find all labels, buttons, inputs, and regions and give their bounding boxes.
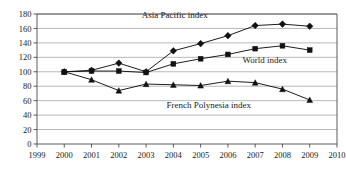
- x-tick-label-2001: 2001: [83, 150, 100, 160]
- chart-canvas: 020406080100120140160180 199920002001200…: [0, 0, 346, 174]
- x-tick-label-2007: 2007: [247, 150, 264, 160]
- x-tick-label-1999: 1999: [29, 150, 46, 160]
- y-tick-label-100: 100: [19, 67, 32, 77]
- data-point-1-2009: [307, 48, 312, 53]
- y-tick-label-120: 120: [19, 52, 32, 62]
- x-tick-label-2004: 2004: [165, 150, 183, 160]
- data-point-1-2008: [280, 43, 285, 48]
- annotation-asia-pacific-index: Asia Pacific index: [142, 10, 208, 20]
- x-tick-label-2010: 2010: [329, 150, 346, 160]
- y-tick-label-40: 40: [23, 110, 32, 120]
- y-tick-label-180: 180: [19, 9, 32, 19]
- annotation-world-index: World index: [242, 55, 287, 65]
- y-tick-label-80: 80: [23, 81, 32, 91]
- data-point-1-2007: [253, 46, 258, 51]
- data-point-1-2003: [144, 70, 149, 75]
- x-tick-label-2005: 2005: [192, 150, 209, 160]
- y-tick-label-0: 0: [27, 139, 31, 149]
- x-tick-label-2002: 2002: [110, 150, 127, 160]
- y-tick-label-20: 20: [23, 125, 32, 135]
- x-tick-label-2003: 2003: [138, 150, 155, 160]
- x-tick-label-2006: 2006: [219, 150, 236, 160]
- data-point-1-2001: [89, 69, 94, 74]
- line-chart: 020406080100120140160180 199920002001200…: [0, 0, 346, 174]
- x-tick-label-2000: 2000: [56, 150, 73, 160]
- x-tick-label-2008: 2008: [274, 150, 291, 160]
- data-point-1-2002: [116, 69, 121, 74]
- y-tick-label-140: 140: [19, 38, 32, 48]
- y-tick-label-60: 60: [23, 96, 32, 106]
- y-tick-label-160: 160: [19, 24, 32, 34]
- annotation-french-polynesia-index: French Polynesia index: [167, 100, 252, 110]
- data-point-1-2005: [198, 56, 203, 61]
- data-point-1-2006: [226, 52, 231, 57]
- data-point-1-2004: [171, 61, 176, 66]
- x-tick-label-2009: 2009: [301, 150, 318, 160]
